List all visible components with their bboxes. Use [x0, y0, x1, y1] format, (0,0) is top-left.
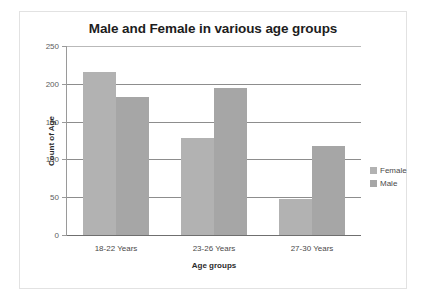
bar-male-0 [116, 97, 149, 235]
x-axis-line [62, 235, 361, 236]
y-axis-title: Count of Age [47, 116, 56, 166]
x-axis-tick-label: 18-22 Years [95, 244, 138, 253]
bar-male-1 [214, 88, 247, 235]
chart-title: Male and Female in various age groups [20, 21, 406, 36]
legend-swatch-icon [370, 167, 377, 174]
y-axis-line [66, 46, 67, 235]
x-axis-title: Age groups [67, 261, 361, 270]
bar-female-1 [181, 138, 214, 235]
legend-swatch-icon [370, 180, 377, 187]
chart-legend: FemaleMale [370, 164, 407, 190]
legend-label: Female [380, 166, 407, 175]
x-axis-tick-label: 23-26 Years [193, 244, 236, 253]
y-axis-tick-mark [62, 122, 67, 123]
y-axis-tick-mark [62, 84, 67, 85]
x-axis-tick-label: 27-30 Years [291, 244, 334, 253]
y-axis-tick-mark [62, 46, 67, 47]
legend-item-male: Male [370, 177, 407, 189]
y-axis-tick-label: 50 [50, 193, 59, 202]
y-axis-tick-label: 200 [46, 79, 59, 88]
y-axis-tick-label: 0 [55, 231, 59, 240]
plot-area: 250200150100500 18-22 Years23-26 Years27… [67, 46, 361, 235]
bar-female-0 [83, 72, 116, 235]
bar-male-2 [312, 146, 345, 235]
y-axis-tick-mark [62, 159, 67, 160]
chart-container: Male and Female in various age groups 25… [19, 11, 407, 289]
y-axis-tick-label: 250 [46, 42, 59, 51]
legend-label: Male [380, 179, 397, 188]
y-axis-tick-mark [62, 197, 67, 198]
y-axis-tick-mark [62, 235, 67, 236]
legend-item-female: Female [370, 164, 407, 176]
bar-female-2 [279, 199, 312, 235]
gridline [67, 46, 361, 47]
